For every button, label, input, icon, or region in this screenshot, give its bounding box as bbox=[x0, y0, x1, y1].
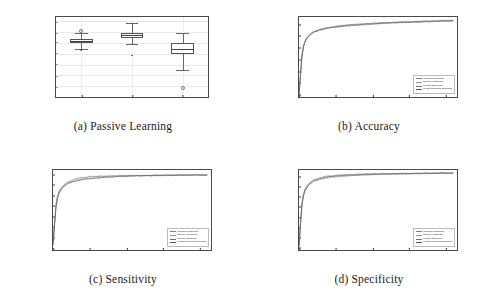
x-tick-label: 100 bbox=[124, 250, 128, 251]
median-line bbox=[121, 35, 144, 36]
axes-d: 0.750.700.650.600.550.500.450.4005010015… bbox=[298, 169, 458, 251]
plot-area-b: 0.800.750.700.650.600.550.50050100150200… bbox=[276, 14, 462, 114]
legend-item: Least Confident Sampling bbox=[416, 88, 452, 92]
plot-area-d: 0.750.700.650.600.550.500.450.4005010015… bbox=[276, 167, 462, 267]
legend-swatch bbox=[416, 239, 422, 240]
plot-area-c: 0.850.800.750.700.650.600.55050100150200… bbox=[30, 167, 216, 267]
legend-swatch bbox=[416, 231, 422, 232]
median-line bbox=[171, 49, 194, 50]
x-tick-label: 200 bbox=[444, 97, 448, 98]
legend-label: Least Confident Sampling bbox=[423, 88, 452, 91]
outlier-point bbox=[79, 29, 83, 33]
caption-c: (c) Sensitivity bbox=[89, 273, 157, 285]
legend-swatch bbox=[416, 235, 422, 236]
x-tick-label: 100 bbox=[370, 250, 374, 251]
caption-d: (d) Specificity bbox=[334, 273, 403, 285]
legend-label: Least Confident Sampling bbox=[177, 241, 206, 244]
x-tick-label: 0 bbox=[298, 250, 299, 251]
panel-sensitivity: 0.850.800.750.700.650.600.55050100150200… bbox=[0, 153, 246, 306]
whisker-cap bbox=[176, 33, 189, 34]
x-tick-label: 50 bbox=[334, 250, 337, 251]
x-tick-label: 0 bbox=[52, 250, 53, 251]
legend-swatch bbox=[170, 242, 176, 243]
axes-a: 0.900.850.800.750.700.650.60accuracysens… bbox=[55, 16, 209, 98]
median-line bbox=[70, 41, 93, 42]
legend-swatch bbox=[416, 242, 422, 243]
whisker-cap bbox=[176, 70, 189, 71]
x-tick-label: 100 bbox=[370, 97, 374, 98]
legend: Random SamplingEntropy SamplingMargin Sa… bbox=[413, 228, 455, 247]
x-tick-label: 0 bbox=[298, 97, 299, 98]
panel-specificity: 0.750.700.650.600.550.500.450.4005010015… bbox=[246, 153, 492, 306]
legend-swatch bbox=[170, 239, 176, 240]
x-tick-label: 150 bbox=[161, 250, 165, 251]
legend-swatch bbox=[416, 89, 422, 90]
legend-item: Least Confident Sampling bbox=[170, 241, 206, 245]
legend-item: Least Confident Sampling bbox=[416, 241, 452, 245]
legend-swatch bbox=[416, 86, 422, 87]
whisker-cap bbox=[126, 44, 139, 45]
x-tick-label: 200 bbox=[444, 250, 448, 251]
legend-swatch bbox=[416, 82, 422, 83]
outlier-point bbox=[181, 86, 185, 90]
legend-swatch bbox=[170, 231, 176, 232]
legend: Random SamplingEntropy SamplingMargin Sa… bbox=[167, 228, 209, 247]
x-tick-label: 200 bbox=[198, 250, 202, 251]
x-tick-label: 150 bbox=[407, 250, 411, 251]
panel-passive-learning: 0.900.850.800.750.700.650.60accuracysens… bbox=[0, 0, 246, 153]
x-tick-label: 50 bbox=[88, 250, 91, 251]
axes-c: 0.850.800.750.700.650.600.55050100150200… bbox=[52, 169, 212, 251]
category-label: sensitivity bbox=[126, 97, 137, 98]
figure-grid: 0.900.850.800.750.700.650.60accuracysens… bbox=[0, 0, 492, 306]
caption-a: (a) Passive Learning bbox=[74, 120, 173, 132]
x-tick-label: 50 bbox=[334, 97, 337, 98]
legend: Random SamplingEntropy SamplingMargin Sa… bbox=[413, 75, 455, 94]
axes-b: 0.800.750.700.650.600.550.50050100150200… bbox=[298, 16, 458, 98]
legend-swatch bbox=[170, 235, 176, 236]
whisker-cap bbox=[75, 33, 88, 34]
category-label: accuracy bbox=[76, 97, 86, 98]
panel-accuracy: 0.800.750.700.650.600.550.50050100150200… bbox=[246, 0, 492, 153]
legend-swatch bbox=[416, 78, 422, 79]
legend-label: Least Confident Sampling bbox=[423, 241, 452, 244]
category-label: specificity bbox=[177, 97, 188, 98]
plot-area-a: 0.900.850.800.750.700.650.60accuracysens… bbox=[33, 14, 213, 114]
x-tick-label: 150 bbox=[407, 97, 411, 98]
caption-b: (b) Accuracy bbox=[338, 120, 400, 132]
